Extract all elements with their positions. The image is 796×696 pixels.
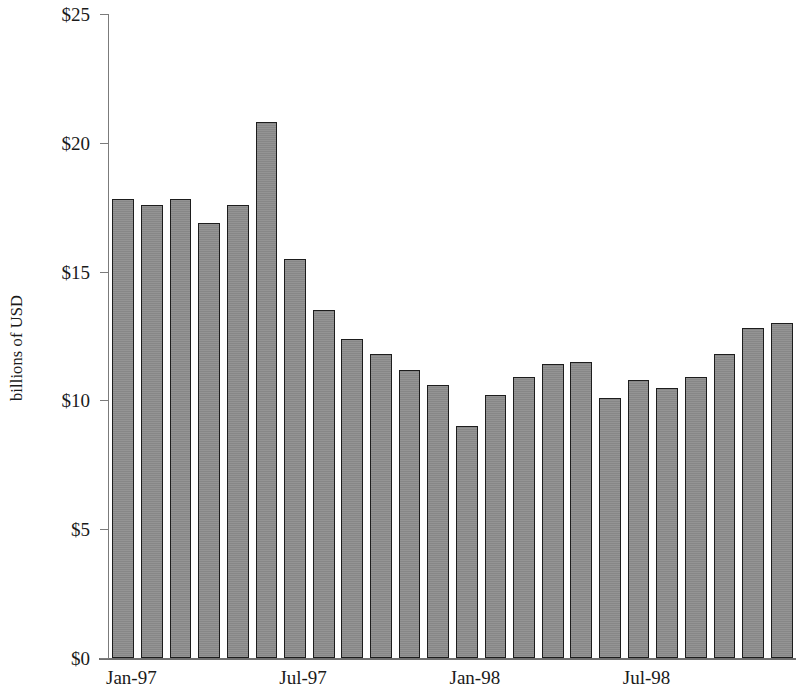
x-tick-label: Jul-97 bbox=[279, 668, 327, 687]
y-tick-mark bbox=[100, 143, 109, 144]
bar bbox=[742, 328, 764, 658]
bar bbox=[542, 364, 564, 658]
y-tick-label: $20 bbox=[26, 133, 90, 152]
bar bbox=[628, 380, 650, 658]
bar bbox=[771, 323, 793, 658]
y-tick-mark bbox=[100, 658, 109, 659]
bar bbox=[685, 377, 707, 658]
plot-area bbox=[109, 14, 796, 658]
bar bbox=[141, 205, 163, 658]
bar bbox=[427, 385, 449, 658]
bar bbox=[485, 395, 507, 658]
x-axis-tick-labels: Jan-97Jul-97Jan-98Jul-98 bbox=[0, 668, 796, 696]
bar bbox=[227, 205, 249, 658]
bar bbox=[170, 199, 192, 658]
x-axis-line bbox=[99, 658, 796, 660]
bar bbox=[112, 199, 134, 658]
y-axis-tick-labels: $0$5$10$15$20$25 bbox=[26, 0, 90, 696]
bar bbox=[456, 426, 478, 658]
x-tick-label: Jan-98 bbox=[449, 668, 500, 687]
y-tick-label: $0 bbox=[26, 649, 90, 668]
bar bbox=[656, 388, 678, 658]
bar-chart: billions of USD $0$5$10$15$20$25 Jan-97J… bbox=[0, 0, 796, 696]
x-tick-label: Jul-98 bbox=[623, 668, 671, 687]
y-tick-label: $10 bbox=[26, 391, 90, 410]
bar bbox=[370, 354, 392, 658]
y-tick-mark bbox=[100, 400, 109, 401]
bar bbox=[313, 310, 335, 658]
bar bbox=[599, 398, 621, 658]
bar bbox=[513, 377, 535, 658]
x-tick-label: Jan-97 bbox=[106, 668, 157, 687]
y-tick-mark bbox=[100, 272, 109, 273]
bar bbox=[341, 339, 363, 658]
bar bbox=[570, 362, 592, 658]
bar bbox=[399, 370, 421, 659]
y-tick-label: $25 bbox=[26, 5, 90, 24]
y-tick-label: $5 bbox=[26, 520, 90, 539]
bar bbox=[256, 122, 278, 658]
y-axis-title-text: billions of USD bbox=[7, 295, 27, 401]
bar bbox=[284, 259, 306, 658]
bar bbox=[198, 223, 220, 658]
y-tick-mark bbox=[100, 529, 109, 530]
bar bbox=[714, 354, 736, 658]
y-tick-label: $15 bbox=[26, 262, 90, 281]
y-tick-mark bbox=[100, 14, 109, 15]
